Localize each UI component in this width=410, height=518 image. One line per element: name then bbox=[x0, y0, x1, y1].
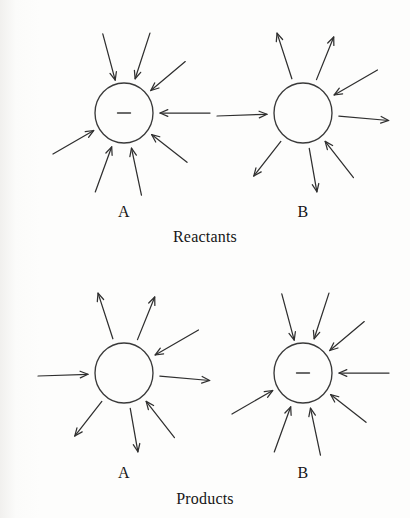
margin-fragment: r bbox=[0, 452, 9, 463]
arrow-outward bbox=[75, 401, 102, 436]
group-label-product-b: B bbox=[283, 464, 323, 482]
arrow-inward bbox=[134, 33, 150, 79]
arrow-inward bbox=[103, 34, 117, 80]
margin-fragment: c bbox=[0, 286, 9, 297]
arrow-outward bbox=[309, 148, 319, 191]
arrow-inward bbox=[146, 401, 174, 437]
diagram-canvas-product-b bbox=[207, 268, 397, 473]
arrow-inward bbox=[130, 148, 142, 195]
figure-page: renotbiclhaert ABReactantsABProducts bbox=[0, 0, 410, 518]
margin-fragment: e bbox=[0, 60, 9, 71]
arrow-outward bbox=[97, 293, 113, 339]
margin-fragment: i bbox=[0, 246, 9, 257]
margin-fragment: n bbox=[0, 98, 9, 109]
arrow-outward bbox=[254, 141, 281, 176]
arrow-outward bbox=[339, 116, 389, 123]
diagram-reactant-a bbox=[28, 8, 218, 213]
arrow-inward bbox=[330, 322, 364, 351]
diagram-canvas-reactant-b bbox=[207, 8, 397, 213]
group-label-reactant-a: A bbox=[104, 203, 144, 221]
row-caption-reactants: Reactants bbox=[0, 228, 410, 246]
arrow-inward bbox=[232, 391, 273, 415]
arrow-inward bbox=[151, 62, 185, 91]
arrow-outward bbox=[137, 297, 154, 340]
diagram-canvas-product-a bbox=[28, 268, 218, 473]
margin-fragment: e bbox=[0, 424, 9, 435]
margin-fragment: b bbox=[0, 210, 9, 221]
arrow-inward bbox=[38, 371, 88, 378]
arrow-inward bbox=[331, 395, 366, 423]
margin-fragment: t bbox=[0, 172, 9, 183]
margin-fragment: h bbox=[0, 356, 9, 367]
arrow-inward bbox=[334, 70, 377, 95]
margin-fragment: a bbox=[0, 392, 9, 403]
arrow-inward bbox=[282, 294, 296, 340]
arrow-inward bbox=[313, 293, 329, 339]
arrow-inward bbox=[152, 135, 187, 163]
diagram-reactant-b bbox=[207, 8, 397, 213]
group-label-reactant-b: B bbox=[283, 203, 323, 221]
arrow-outward bbox=[160, 376, 210, 383]
margin-fragment: l bbox=[0, 322, 9, 333]
arrow-inward bbox=[309, 408, 321, 455]
group-label-product-a: A bbox=[104, 464, 144, 482]
arrow-outward bbox=[276, 33, 292, 79]
arrow-inward bbox=[274, 407, 291, 452]
arrow-inward bbox=[325, 141, 353, 177]
arrow-inward bbox=[95, 147, 112, 192]
margin-fragment: r bbox=[0, 18, 9, 29]
margin-text-fragments: renotbiclhaert bbox=[0, 0, 9, 518]
particle-circle-reactant-b bbox=[274, 83, 332, 143]
arrow-inward bbox=[160, 110, 210, 117]
arrow-inward bbox=[53, 131, 94, 155]
row-caption-products: Products bbox=[0, 490, 410, 508]
arrow-inward bbox=[155, 330, 198, 355]
arrow-outward bbox=[316, 37, 333, 80]
margin-fragment: o bbox=[0, 134, 9, 145]
arrow-outward bbox=[130, 408, 140, 451]
particle-circle-product-a bbox=[95, 343, 153, 403]
diagram-product-b bbox=[207, 268, 397, 473]
diagram-canvas-reactant-a bbox=[28, 8, 218, 213]
arrow-inward bbox=[217, 111, 267, 118]
diagram-product-a bbox=[28, 268, 218, 473]
arrow-inward bbox=[339, 370, 389, 377]
